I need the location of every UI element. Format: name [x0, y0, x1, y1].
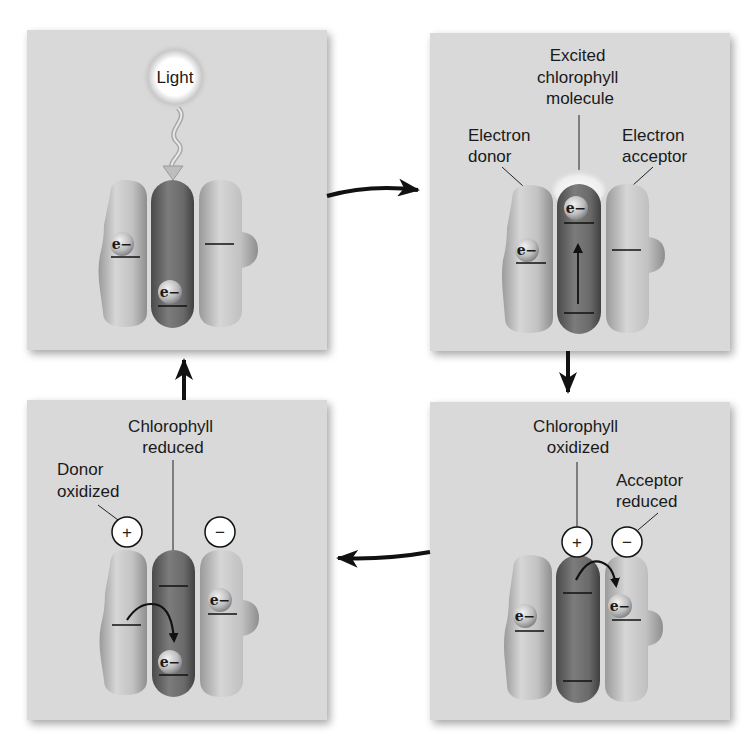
light-label: Light [157, 68, 194, 87]
positive-charge-symbol: + [572, 533, 582, 552]
electron-symbol: e− [160, 654, 181, 670]
negative-charge-symbol: − [215, 523, 225, 542]
positive-charge-symbol: + [122, 523, 132, 542]
cycle-arrow-left [338, 552, 430, 558]
electron-symbol: e− [210, 592, 231, 608]
electron-symbol: e− [517, 242, 538, 258]
cycle-arrow-right [327, 188, 418, 196]
electron-symbol: e− [160, 284, 181, 300]
excited-chlorophyll-label: Excited chlorophyll molecule [537, 46, 623, 108]
diagram-canvas: Light e− e− Excited chlorophyll molecule… [0, 0, 750, 741]
electron-symbol: e− [515, 608, 536, 624]
electron-symbol: e− [112, 236, 133, 252]
electron-symbol: e− [566, 200, 587, 216]
electron-symbol: e− [610, 598, 631, 614]
negative-charge-symbol: − [622, 533, 632, 552]
